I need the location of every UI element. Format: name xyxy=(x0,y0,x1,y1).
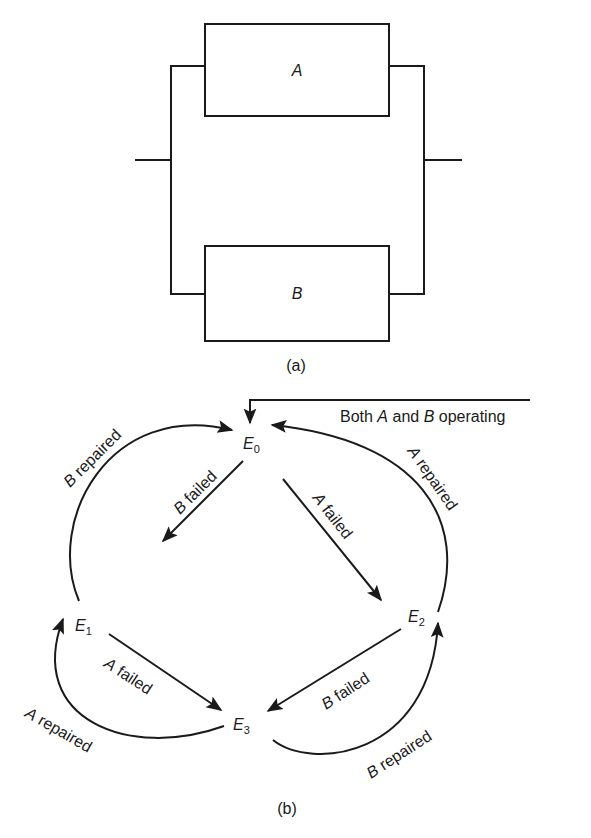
transition-arrow-e0-e2 xyxy=(283,479,381,600)
right-bus xyxy=(389,66,424,294)
state-transition-diagram: Both A and B operating E0 E1 E2 E3 B fai… xyxy=(22,400,530,817)
state-e1: E1 xyxy=(75,617,92,637)
initial-state-label: Both A and B operating xyxy=(340,408,505,425)
transition-label-e0-e2: A failed xyxy=(309,489,356,542)
block-a-label: A xyxy=(291,62,303,79)
block-b-label: B xyxy=(292,285,303,302)
state-e0: E0 xyxy=(243,435,260,455)
diagram-canvas: A B (a) Both A and B operating E0 E1 E2 … xyxy=(0,0,591,838)
left-bus xyxy=(171,66,205,294)
transition-label-e3-e2: B repaired xyxy=(363,727,434,781)
parallel-system-diagram: A B (a) xyxy=(135,24,462,374)
state-e3: E3 xyxy=(233,716,250,736)
caption-b: (b) xyxy=(277,800,297,817)
transition-label-e3-e1: A repaired xyxy=(22,703,95,755)
caption-a: (a) xyxy=(286,357,306,374)
state-e2: E2 xyxy=(408,608,425,628)
